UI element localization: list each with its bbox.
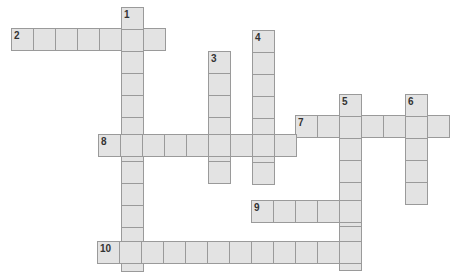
crossword-cell[interactable] [164, 134, 187, 157]
clue-number: 3 [211, 54, 217, 64]
crossword-cell[interactable] [121, 73, 144, 96]
crossword-cell[interactable] [33, 28, 56, 51]
crossword-cell[interactable] [295, 200, 318, 223]
crossword-cell[interactable] [427, 115, 450, 138]
crossword-cell[interactable] [339, 116, 362, 139]
crossword-cell[interactable] [207, 241, 230, 264]
crossword-cell[interactable]: 1 [121, 7, 144, 30]
crossword-cell[interactable] [163, 241, 186, 264]
crossword-cell[interactable]: 10 [97, 241, 120, 264]
crossword-cell[interactable] [208, 73, 231, 96]
crossword-cell[interactable] [230, 134, 253, 157]
crossword-cell[interactable]: 8 [98, 134, 121, 157]
crossword-cell[interactable] [273, 200, 296, 223]
crossword-cell[interactable] [121, 183, 144, 206]
crossword-cell[interactable] [339, 241, 362, 264]
crossword-cell[interactable] [252, 162, 275, 185]
crossword-cell[interactable]: 6 [405, 94, 428, 117]
clue-number: 4 [255, 33, 261, 43]
crossword-cell[interactable] [339, 160, 362, 183]
crossword-cell[interactable] [252, 74, 275, 97]
crossword-cell[interactable] [317, 115, 340, 138]
crossword-cell[interactable]: 3 [208, 51, 231, 74]
clue-number: 7 [298, 118, 304, 128]
crossword-cell[interactable] [229, 241, 252, 264]
crossword-cell[interactable]: 9 [251, 200, 274, 223]
crossword-cell[interactable] [361, 115, 384, 138]
crossword-cell[interactable] [405, 116, 428, 139]
crossword-cell[interactable] [405, 138, 428, 161]
clue-number: 6 [408, 97, 414, 107]
clue-number: 10 [100, 244, 111, 254]
crossword-cell[interactable] [141, 241, 164, 264]
crossword-cell[interactable] [185, 241, 208, 264]
crossword-cell[interactable] [274, 134, 297, 157]
crossword-cell[interactable] [317, 200, 340, 223]
crossword-cell[interactable] [252, 52, 275, 75]
crossword-cell[interactable] [208, 95, 231, 118]
crossword-cell[interactable] [339, 200, 362, 223]
crossword-cell[interactable] [317, 241, 340, 264]
clue-number: 9 [254, 203, 260, 213]
crossword-cell[interactable] [121, 29, 144, 52]
crossword-cell[interactable] [251, 241, 274, 264]
crossword-cell[interactable] [273, 241, 296, 264]
crossword-cell[interactable] [121, 205, 144, 228]
crossword-cell[interactable] [252, 134, 275, 157]
crossword-cell[interactable] [121, 161, 144, 184]
clue-number: 1 [124, 10, 130, 20]
crossword-cell[interactable]: 5 [339, 94, 362, 117]
crossword-cell[interactable] [121, 95, 144, 118]
crossword-cell[interactable]: 2 [11, 28, 34, 51]
crossword-cell[interactable] [339, 138, 362, 161]
crossword-cell[interactable]: 7 [295, 115, 318, 138]
crossword-cell[interactable] [405, 182, 428, 205]
clue-number: 8 [101, 137, 107, 147]
crossword-cell[interactable] [143, 28, 166, 51]
crossword-cell[interactable] [142, 134, 165, 157]
crossword-cell[interactable] [119, 241, 142, 264]
clue-number: 2 [14, 31, 20, 41]
crossword-cell[interactable] [186, 134, 209, 157]
clue-number: 5 [342, 97, 348, 107]
crossword-cell[interactable] [77, 28, 100, 51]
crossword-cell[interactable] [99, 28, 122, 51]
crossword-cell[interactable] [405, 160, 428, 183]
crossword-cell[interactable]: 4 [252, 30, 275, 53]
crossword-cell[interactable] [120, 134, 143, 157]
crossword-cell[interactable] [295, 241, 318, 264]
crossword-cell[interactable] [208, 161, 231, 184]
crossword-cell[interactable] [121, 51, 144, 74]
crossword-cell[interactable] [55, 28, 78, 51]
crossword-cell[interactable] [208, 134, 231, 157]
crossword-cell[interactable] [252, 96, 275, 119]
crossword-cell[interactable] [383, 115, 406, 138]
